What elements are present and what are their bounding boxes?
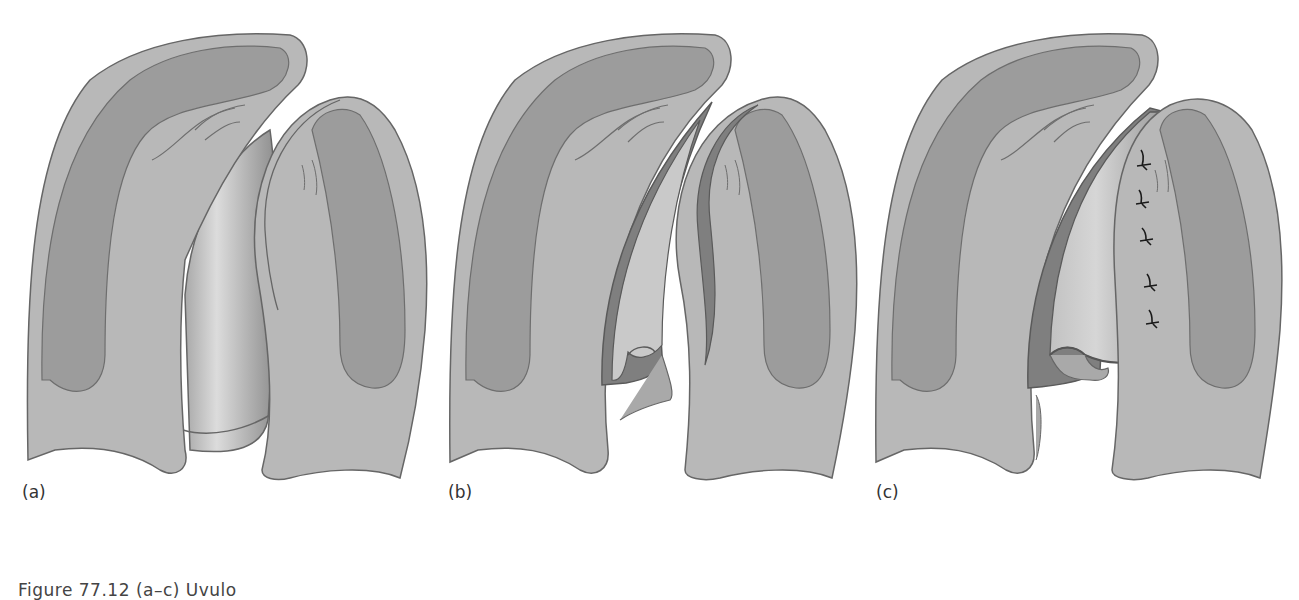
panel-c-illustration — [860, 0, 1299, 560]
panel-c: (c) — [860, 0, 1299, 560]
panel-a-illustration — [0, 0, 440, 560]
figure-caption: Figure 77.12 (a–c) Uvulo — [18, 580, 237, 600]
panel-label-a: (a) — [22, 482, 46, 502]
panel-label-c: (c) — [876, 482, 899, 502]
panel-b-illustration — [430, 0, 870, 560]
panel-a: (a) — [0, 0, 440, 560]
panel-b: (b) — [430, 0, 870, 560]
panel-label-b: (b) — [448, 482, 472, 502]
